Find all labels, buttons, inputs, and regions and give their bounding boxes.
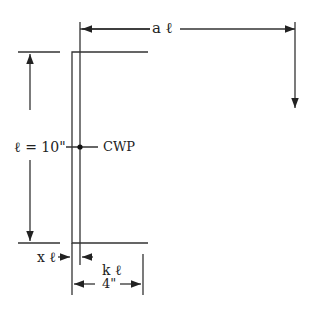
channel-diagram [0,0,311,312]
cwp-point [77,144,82,149]
a-ell-label: a ℓ [152,21,173,36]
width-label: 4" [102,277,116,290]
height-label: ℓ = 10" [14,140,66,154]
x-ell-label: x ℓ [37,250,56,264]
cwp-label: CWP [103,140,135,153]
k-ell-label: k ℓ [102,263,122,277]
